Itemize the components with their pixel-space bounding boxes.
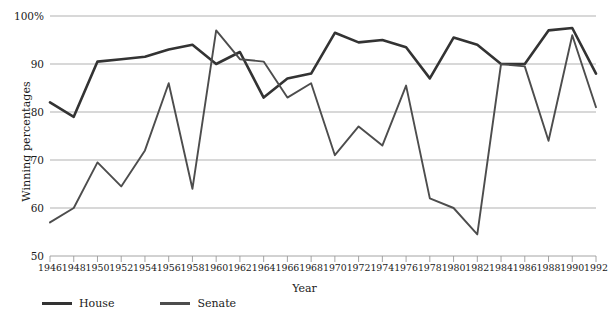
gridlines	[50, 16, 596, 208]
x-tick-label: 1958	[179, 262, 205, 273]
series-line-house	[50, 28, 596, 117]
series-line-senate	[50, 30, 596, 234]
x-tick-label: 1970	[322, 262, 348, 273]
legend-spacer	[114, 303, 160, 304]
plot-area	[0, 0, 609, 326]
x-tick-label: 1990	[559, 262, 585, 273]
legend-item-house: House	[42, 298, 114, 309]
data-series-layer	[50, 28, 596, 234]
x-tick-label: 1948	[61, 262, 87, 273]
x-tick-label: 1968	[298, 262, 324, 273]
x-tick-label: 1976	[393, 262, 419, 273]
x-tick-label: 1950	[84, 262, 110, 273]
legend-swatch-house	[42, 302, 72, 305]
legend-label-senate: Senate	[197, 298, 236, 309]
chart-legend: House Senate	[42, 298, 236, 309]
x-tick-label: 1984	[488, 262, 514, 273]
x-tick-label: 1972	[346, 262, 372, 273]
x-tick-label: 1960	[203, 262, 229, 273]
x-tick-label: 1952	[108, 262, 134, 273]
x-tick-label: 1980	[441, 262, 467, 273]
x-tick-label: 1982	[464, 262, 490, 273]
x-tick-label: 1966	[274, 262, 300, 273]
x-tick-label: 1974	[369, 262, 395, 273]
legend-swatch-senate	[160, 302, 190, 305]
x-tick-label: 1988	[536, 262, 562, 273]
x-tick-label: 1956	[156, 262, 182, 273]
x-tick-label: 1986	[512, 262, 538, 273]
line-chart: Winning percentages Year 100% 90 80 70 6…	[0, 0, 609, 326]
x-tick-label: 1946	[37, 262, 63, 273]
x-tick-label: 1962	[227, 262, 253, 273]
legend-label-house: House	[79, 298, 114, 309]
legend-item-senate: Senate	[160, 298, 236, 309]
x-tick-label: 1964	[251, 262, 277, 273]
x-tick-label: 1954	[132, 262, 158, 273]
x-tick-label: 1978	[417, 262, 443, 273]
x-tick-label: 1992	[583, 262, 609, 273]
